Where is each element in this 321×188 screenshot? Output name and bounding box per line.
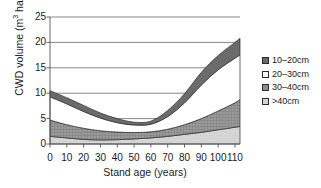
legend-item: 10–20cm [262,54,309,68]
legend-label: 30–40cm [272,83,309,92]
legend-label: 10–20cm [272,56,309,65]
legend-item: 20–30cm [262,68,309,82]
data-bands [50,38,240,144]
legend-item: >40cm [262,95,309,109]
chart-legend: 10–20cm20–30cm30–40cm>40cm [262,54,309,108]
legend-item: 30–40cm [262,81,309,95]
x-tick-label: 110 [225,153,245,163]
legend-swatch-icon [262,57,269,64]
legend-swatch-icon [262,71,269,78]
legend-swatch-icon [262,98,269,105]
chart-figure: CWD volume (m3 ha−1) 2520151050 01020304… [0,0,321,188]
legend-label: >40cm [272,97,299,106]
x-axis-label: Stand age (years) [50,166,240,178]
legend-swatch-icon [262,84,269,91]
legend-label: 20–30cm [272,70,309,79]
x-axis-ticks: 0102030405060708090100110 [0,148,260,164]
